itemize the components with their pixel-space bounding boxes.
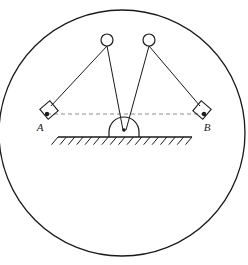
hatch-line [60,137,66,145]
block-a-dot [45,112,49,116]
hatch-line [135,137,141,145]
ball-left [101,34,113,46]
hatch-line [110,137,116,145]
hatch-line [52,137,58,145]
hatch-line [77,137,83,145]
label-b: B [204,121,211,133]
hatch-line [152,137,158,145]
hatch-line [144,137,150,145]
block-b-dot [202,112,206,116]
hatch-line [68,137,74,145]
hatch-line [169,137,175,145]
string-left-to-block-a [51,46,107,106]
hatch-line [186,137,192,145]
hatch-line [85,137,91,145]
hatch-line [102,137,108,145]
block-a [40,101,58,119]
ball-group [101,34,155,46]
ground-hatching [52,137,192,145]
block-a-body [40,101,58,119]
outer-boundary-circle [0,10,245,256]
string-left-to-pivot [107,46,123,130]
block-b [193,101,211,119]
string-right-to-pivot [126,46,149,130]
hatch-line [160,137,166,145]
hatch-line [177,137,183,145]
ball-right [143,34,155,46]
block-group [40,101,211,119]
block-b-body [193,101,211,119]
hatch-line [93,137,99,145]
diagram-canvas: A B [0,0,248,265]
label-a: A [36,121,44,133]
string-right-to-block-b [149,46,200,106]
physics-figure: A B [0,0,248,265]
hatch-line [127,137,133,145]
dome-pivot-shape [109,117,139,137]
hatch-line [119,137,125,145]
